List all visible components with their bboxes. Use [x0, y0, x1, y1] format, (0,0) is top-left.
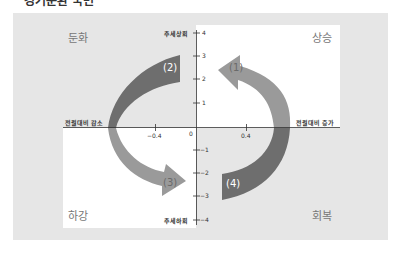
x-tick-label: −0.4	[147, 132, 162, 139]
arrow-4-icon	[222, 128, 290, 200]
x-tick-label: 0.4	[241, 132, 251, 139]
arrow-3-label: (3)	[163, 177, 177, 188]
y-axis-bottom-label: 추세하회	[164, 216, 188, 225]
y-tick-label: −1	[200, 146, 209, 153]
arrow-2-label: (2)	[163, 62, 177, 73]
y-tick-label: −4	[200, 216, 209, 223]
x-axis-left-label: 전월대비 감소	[65, 118, 103, 127]
arrow-1-label: (1)	[229, 62, 243, 73]
origin-label: 0	[189, 130, 193, 137]
y-tick-label: −2	[200, 169, 209, 176]
x-axis-right-label: 전월대비 증가	[296, 118, 334, 127]
y-tick-label: 1	[202, 99, 206, 106]
y-axis-top-label: 추세상회	[164, 29, 188, 38]
y-tick-label: 2	[202, 75, 206, 82]
y-tick-label: 3	[202, 52, 206, 59]
y-tick-label: 4	[202, 29, 206, 36]
y-tick-label: −3	[200, 192, 209, 199]
arrow-4-label: (4)	[226, 178, 240, 189]
